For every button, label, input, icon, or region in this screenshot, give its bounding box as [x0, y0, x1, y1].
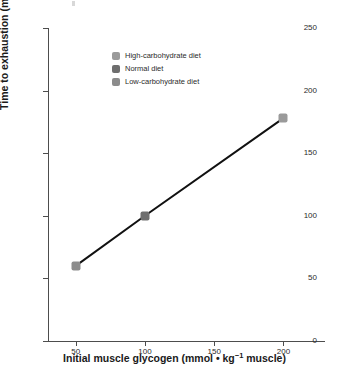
legend-swatch-icon	[112, 52, 120, 60]
legend-item: Low-carbohydrate diet	[112, 77, 201, 87]
legend-swatch-icon	[112, 65, 120, 73]
x-axis-tick	[145, 341, 146, 346]
y-axis-title: Time to exhaustion (min)	[0, 0, 10, 110]
x-axis-tick-label: 150	[208, 348, 221, 356]
legend-swatch-icon	[112, 78, 120, 86]
x-axis-title-superscript: −1	[235, 351, 244, 360]
chart-figure: Time to exhaustion (min) Initial muscle …	[0, 0, 349, 372]
legend-item: High-carbohydrate diet	[112, 51, 201, 61]
data-point-marker	[140, 211, 149, 220]
x-axis-tick	[76, 341, 77, 346]
top-edge-artifact	[72, 1, 75, 6]
data-point-marker	[71, 261, 80, 270]
legend-item: Normal diet	[112, 64, 201, 74]
legend-item-label: Low-carbohydrate diet	[125, 78, 199, 86]
legend: High-carbohydrate dietNormal dietLow-car…	[112, 51, 201, 87]
legend-item-label: Normal diet	[125, 65, 163, 73]
x-axis-tick-label: 50	[71, 348, 80, 356]
x-axis-tick-label: 200	[277, 348, 290, 356]
plot-area: 050100150200250 50100150200 High-carbohy…	[48, 28, 325, 341]
legend-item-label: High-carbohydrate diet	[125, 52, 201, 60]
x-axis-tick	[214, 341, 215, 346]
x-axis-tick-label: 100	[138, 348, 151, 356]
y-axis-tick	[43, 341, 48, 342]
x-axis-tick	[283, 341, 284, 346]
data-point-marker	[279, 114, 288, 123]
x-axis-title: Initial muscle glycogen (mmol • kg−1 mus…	[0, 352, 349, 364]
